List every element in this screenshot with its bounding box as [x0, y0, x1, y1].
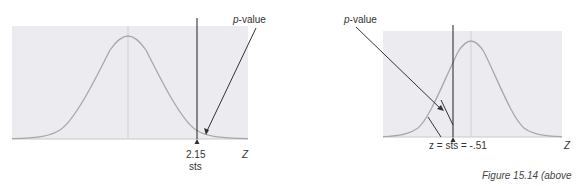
- figure-canvas: [0, 0, 576, 186]
- left-pvalue-label: p-value: [233, 14, 266, 25]
- left-marker-arrowhead: [195, 139, 200, 144]
- left-axis-label: Z: [242, 149, 248, 160]
- left-marker-name: sts: [189, 161, 202, 172]
- figure-caption: Figure 15.14 (above: [482, 170, 572, 181]
- right-axis-label: Z: [564, 140, 570, 151]
- right-marker-label: z = sts = -.51: [429, 140, 487, 151]
- right-pvalue-label: p-value: [344, 14, 377, 25]
- left-marker-value: 2.15: [186, 149, 205, 160]
- left-plot-background: [12, 26, 248, 139]
- right-plot-background: [383, 31, 562, 137]
